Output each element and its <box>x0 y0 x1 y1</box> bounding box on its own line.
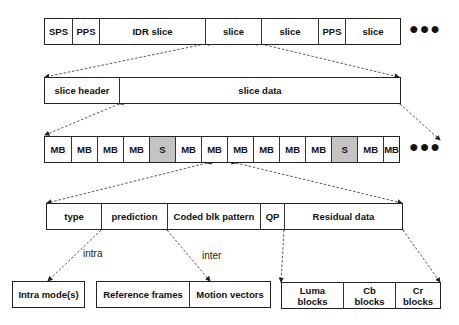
slice-cell: slice <box>262 19 319 44</box>
macroblock-fields-row: type prediction Coded blk pattern QP Res… <box>46 203 403 230</box>
continuation-dots: ●●● <box>409 20 441 38</box>
mb-cell: MB <box>98 137 124 162</box>
mb-cell: MB <box>72 137 98 162</box>
intra-mode-box: Intra mode(s) <box>12 281 85 308</box>
type-cell: type <box>47 204 102 229</box>
mb-cell: MB <box>254 137 280 162</box>
mb-cell: MB <box>280 137 306 162</box>
mb-cell: MB <box>306 137 332 162</box>
inter-branch-label: inter <box>202 250 221 261</box>
mb-cell: MB <box>45 137 72 162</box>
slice-cell: slice <box>346 19 400 44</box>
pps-cell: PPS <box>73 19 100 44</box>
skip-cell: S <box>332 137 358 162</box>
mb-cell: MB <box>228 137 254 162</box>
mb-cell: MB <box>384 137 399 162</box>
slice-cell: slice <box>206 19 262 44</box>
intra-modes-cell: Intra mode(s) <box>13 282 84 307</box>
cb-blocks-cell: Cbblocks <box>344 283 396 308</box>
inter-prediction-row: Reference frames Motion vectors <box>96 281 271 308</box>
skip-cell: S <box>150 137 176 162</box>
macroblock-sequence-row: MB MB MB MB S MB MB MB MB MB MB S MB MB <box>44 136 400 163</box>
idr-slice-cell: IDR slice <box>100 19 206 44</box>
prediction-cell: prediction <box>102 204 168 229</box>
reference-frames-cell: Reference frames <box>97 282 190 307</box>
pps-cell: PPS <box>319 19 346 44</box>
nal-unit-row: SPS PPS IDR slice slice slice PPS slice <box>44 18 401 45</box>
slice-structure-row: slice header slice data <box>44 77 401 104</box>
mb-cell: MB <box>202 137 228 162</box>
continuation-dots: ●●● <box>409 138 441 156</box>
mb-cell: MB <box>358 137 384 162</box>
slice-header-cell: slice header <box>45 78 120 103</box>
mb-cell: MB <box>124 137 150 162</box>
slice-data-cell: slice data <box>120 78 400 103</box>
qp-cell: QP <box>261 204 285 229</box>
sps-cell: SPS <box>45 19 73 44</box>
luma-blocks-cell: Lumablocks <box>282 283 344 308</box>
residual-blocks-row: Lumablocks Cbblocks Crblocks <box>281 282 441 309</box>
motion-vectors-cell: Motion vectors <box>190 282 270 307</box>
intra-branch-label: intra <box>83 248 102 259</box>
residual-data-cell: Residual data <box>285 204 402 229</box>
coded-block-pattern-cell: Coded blk pattern <box>168 204 261 229</box>
mb-cell: MB <box>176 137 202 162</box>
cr-blocks-cell: Crblocks <box>396 283 440 308</box>
